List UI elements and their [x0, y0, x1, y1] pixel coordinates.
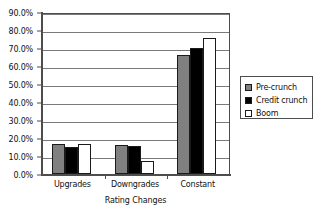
- y-axis-tick-label: 10.0%: [9, 153, 33, 162]
- x-axis-tick-label: Downgrades: [111, 180, 159, 189]
- legend-entry: Boom: [245, 107, 312, 119]
- y-axis-tick-label: 0.0%: [13, 171, 33, 180]
- y-axis-tick-label: 40.0%: [9, 99, 33, 108]
- y-axis-tick-label: 50.0%: [9, 81, 33, 90]
- y-axis-tick-label: 60.0%: [9, 63, 33, 72]
- legend-swatch-icon: [245, 97, 252, 104]
- legend-swatch-icon: [245, 110, 252, 117]
- x-axis-tick-label: Constant: [180, 180, 214, 189]
- y-axis-tick: [37, 103, 41, 104]
- legend-entry: Credit crunch: [245, 94, 312, 106]
- legend-label: Credit crunch: [256, 96, 307, 105]
- bar: [141, 161, 154, 174]
- chart-legend: Pre-crunchCredit crunchBoom: [240, 76, 313, 119]
- y-axis-tick-label: 30.0%: [9, 117, 33, 126]
- bar: [115, 145, 128, 174]
- legend-label: Boom: [256, 109, 278, 118]
- x-axis-tick: [105, 176, 106, 179]
- legend-swatch-icon: [245, 84, 252, 91]
- y-axis-tick: [37, 31, 41, 32]
- y-axis-tick: [37, 67, 41, 68]
- y-axis-tick: [37, 175, 41, 176]
- y-axis-tick-label: 20.0%: [9, 135, 33, 144]
- y-axis-labels: 0.0%10.0%20.0%30.0%40.0%50.0%60.0%70.0%8…: [0, 13, 38, 175]
- y-axis-tick: [37, 157, 41, 158]
- y-axis-tick-label: 80.0%: [9, 27, 33, 36]
- x-axis-tick: [167, 176, 168, 179]
- y-axis-tick-label: 90.0%: [9, 9, 33, 18]
- y-axis-tick: [37, 139, 41, 140]
- bar: [65, 147, 78, 174]
- y-axis-tick: [37, 85, 41, 86]
- bar-chart: 0.0%10.0%20.0%30.0%40.0%50.0%60.0%70.0%8…: [0, 0, 316, 215]
- x-axis-title: Rating Changes: [41, 196, 230, 205]
- y-axis-tick: [37, 121, 41, 122]
- y-axis-tick-label: 70.0%: [9, 45, 33, 54]
- x-axis-line: [41, 174, 231, 176]
- y-axis-tick: [37, 49, 41, 50]
- legend-entry: Pre-crunch: [245, 81, 312, 93]
- legend-label: Pre-crunch: [256, 83, 297, 92]
- bar: [78, 144, 91, 174]
- bar: [177, 55, 190, 174]
- bar: [52, 144, 65, 174]
- bars-layer: [42, 13, 230, 174]
- y-axis-tick: [37, 13, 41, 14]
- bar: [203, 38, 216, 174]
- x-axis-tick-label: Upgrades: [54, 180, 91, 189]
- bar: [128, 146, 141, 174]
- bar: [190, 48, 203, 174]
- x-axis-labels: UpgradesDowngradesConstant: [41, 180, 230, 194]
